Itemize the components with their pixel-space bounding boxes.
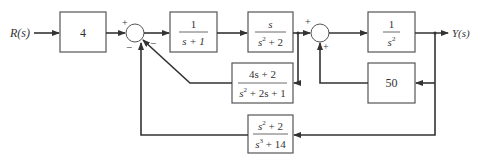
- g2-denominator: s2 + 2: [258, 35, 283, 48]
- summing-junction-2: [311, 24, 329, 42]
- g2-numerator: s: [268, 18, 272, 30]
- sum1-bottom-sign: −: [126, 41, 132, 53]
- gain-value: 4: [80, 26, 86, 40]
- g1-numerator: 1: [191, 18, 197, 30]
- sum2-top-sign: +: [305, 16, 311, 27]
- sum1-top-sign: +: [122, 17, 128, 28]
- h3-numerator: s2 + 2: [258, 119, 283, 132]
- h2-value: 50: [386, 76, 398, 90]
- h1-denominator: s2 + 2s + 1: [239, 86, 285, 99]
- g3-numerator: 1: [389, 18, 395, 30]
- h1-numerator: 4s + 2: [249, 68, 276, 80]
- output-label: Y(s): [452, 27, 470, 40]
- summing-junction-1: [126, 24, 144, 42]
- input-label: R(s): [9, 26, 30, 40]
- g1-denominator: s + 1: [182, 35, 205, 47]
- block-diagram: R(s) 4 + − − 1 s + 1 s s2 + 2 + + 1 s2 Y…: [0, 0, 485, 161]
- sum2-bottom-sign: +: [323, 41, 329, 52]
- wire-to-h1: [294, 33, 298, 83]
